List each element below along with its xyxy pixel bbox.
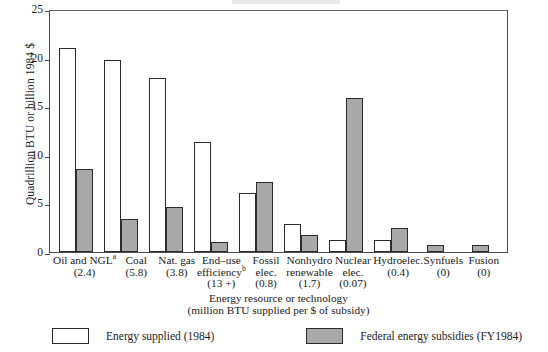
bar-supplied [239, 193, 256, 252]
bar-supplied [59, 48, 76, 252]
category-sublabel: (2.4) [53, 267, 116, 279]
figure-bar-chart-energy-supply-vs-subsidies: Quadrillion BTU or billion 1984 $ 051015… [0, 0, 548, 352]
bar-subsidy [346, 98, 363, 252]
category-name: Nat. gas [157, 255, 198, 267]
x-axis-category-label: Nat. gas(3.8) [157, 255, 198, 290]
legend-swatch-energy-supplied [52, 328, 89, 344]
x-axis-category-label: Synfuels(0) [423, 255, 464, 290]
bar-subsidy [121, 219, 138, 252]
y-axis-tick-label: 20 [21, 52, 43, 64]
category-sublabel: (0.8) [246, 278, 287, 290]
x-axis-title-line2: (million BTU supplied per $ of subsidy) [49, 304, 508, 316]
category-sublabel: (13 +) [197, 278, 246, 290]
bar-group [189, 11, 234, 252]
category-sublabel: (0.4) [373, 267, 423, 279]
y-axis-tick-label: 15 [21, 100, 43, 112]
category-name: Hydroelec. [373, 255, 423, 267]
category-name: Oil and NGLa [53, 255, 116, 267]
x-axis-category-label: Fossilelec.(0.8) [246, 255, 287, 290]
x-axis-title-line1: Energy resource or technology [49, 292, 508, 304]
category-sublabel: (1.7) [286, 278, 332, 290]
y-axis-tick-label: 25 [21, 3, 43, 15]
category-sublabel: (0) [423, 267, 464, 279]
category-name: Fossil [246, 255, 287, 267]
bar-supplied [374, 240, 391, 252]
legend-label-federal-subsidies: Federal energy subsidies (FY1984) [360, 330, 522, 342]
bar-group [458, 11, 503, 252]
bar-group [368, 11, 413, 252]
x-axis-tick-labels: Oil and NGLa(2.4)Coal(5.8)Nat. gas(3.8)E… [49, 255, 508, 290]
x-axis-category-label: Nuclearelec.(0.07) [333, 255, 374, 290]
bar-group [279, 11, 324, 252]
plot-area: 0510152025 [49, 10, 508, 253]
bar-subsidy [301, 235, 318, 252]
x-axis-category-label: Oil and NGLa(2.4) [53, 255, 116, 290]
bar-supplied [104, 60, 121, 252]
chart-legend: Energy supplied (1984) Federal energy su… [52, 328, 522, 344]
category-sublabel: (0.07) [333, 278, 374, 290]
y-axis-tick-label: 10 [21, 149, 43, 161]
bar-supplied [194, 142, 211, 252]
x-axis-category-label: Hydroelec.(0.4) [373, 255, 423, 290]
category-name: Nuclear [333, 255, 374, 267]
bar-subsidy [256, 182, 273, 252]
bar-supplied [329, 240, 346, 252]
bar-subsidy [166, 207, 183, 252]
bar-subsidy [391, 228, 408, 252]
bar-supplied [149, 78, 166, 252]
x-axis-title: Energy resource or technology (million B… [49, 292, 508, 317]
legend-item-federal-subsidies: Federal energy subsidies (FY1984) [306, 328, 522, 344]
category-sublabel: (5.8) [116, 267, 157, 279]
bar-group [234, 11, 279, 252]
category-name: Synfuels [423, 255, 464, 267]
y-axis-title: Quadrillion BTU or billion 1984 $ [24, 0, 36, 249]
category-sublabel: (0) [464, 267, 505, 279]
bar-supplied [284, 224, 301, 252]
scan-artifact [232, 0, 340, 4]
category-name: Fusion [464, 255, 505, 267]
bar-group [99, 11, 144, 252]
y-axis-tick-label: 5 [21, 197, 43, 209]
bar-group [413, 11, 458, 252]
bar-group [144, 11, 189, 252]
bar-subsidy [472, 245, 489, 252]
x-axis-category-label: Nonhydrorenewable(1.7) [286, 255, 332, 290]
category-name: Nonhydro [286, 255, 332, 267]
category-sublabel: (3.8) [157, 267, 198, 279]
bar-subsidy [76, 169, 93, 252]
category-name: Coal [116, 255, 157, 267]
y-axis-tick-label: 0 [21, 246, 43, 258]
bar-group [323, 11, 368, 252]
bar-subsidy [427, 245, 444, 252]
legend-item-energy-supplied: Energy supplied (1984) [52, 328, 306, 344]
bar-groups [50, 11, 507, 252]
bar-subsidy [211, 242, 228, 252]
legend-label-energy-supplied: Energy supplied (1984) [106, 330, 214, 342]
category-name: End–use [197, 255, 246, 267]
x-axis-category-label: Coal(5.8) [116, 255, 157, 290]
x-axis-category-label: End–useefficiencyb(13 +) [197, 255, 246, 290]
bar-group [54, 11, 99, 252]
legend-swatch-federal-subsidies [306, 328, 343, 344]
x-axis-category-label: Fusion(0) [464, 255, 505, 290]
